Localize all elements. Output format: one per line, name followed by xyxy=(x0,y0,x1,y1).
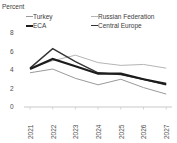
line-chart: 202120222023202420252026202702468 xyxy=(0,0,177,143)
x-tick-label: 2022 xyxy=(50,124,57,139)
series-line-russian-federation xyxy=(30,55,166,68)
x-tick-label: 2024 xyxy=(95,124,102,139)
x-tick-label: 2027 xyxy=(163,124,170,139)
x-tick-label: 2023 xyxy=(72,124,79,139)
x-tick-label: 2026 xyxy=(140,124,147,139)
y-tick-label: 4 xyxy=(10,66,14,73)
y-tick-label: 8 xyxy=(10,29,14,36)
y-tick-label: 0 xyxy=(10,103,14,110)
chart-panel: Percent TurkeyECARussian FederationCentr… xyxy=(0,0,177,143)
y-tick-label: 2 xyxy=(10,85,14,92)
x-tick-label: 2021 xyxy=(27,124,34,139)
y-tick-label: 6 xyxy=(10,48,14,55)
x-tick-label: 2025 xyxy=(118,124,125,139)
